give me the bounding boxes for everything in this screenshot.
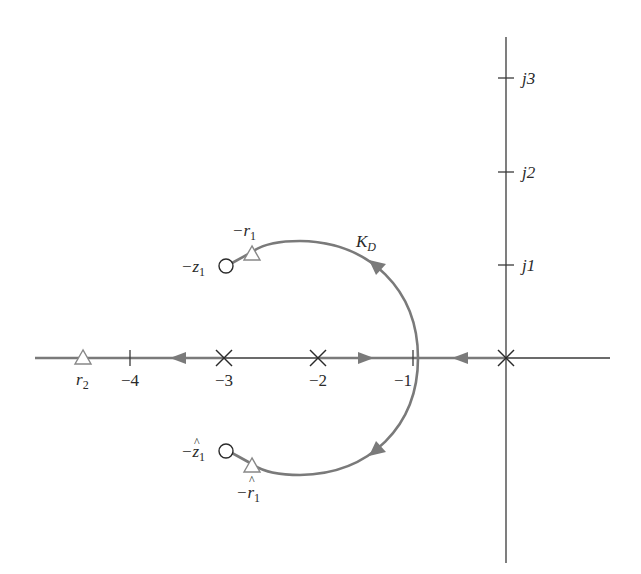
tick-label-m2: −2 xyxy=(309,371,327,390)
arrow-right-icon xyxy=(358,352,374,364)
locus-upper-arc xyxy=(252,241,418,358)
tick-label-m3: −3 xyxy=(215,371,233,390)
label-gain-kd: KD xyxy=(355,232,376,254)
arrow-left-icon xyxy=(452,352,468,364)
tick-label-m1: −1 xyxy=(394,371,412,390)
tick-label-j1: j1 xyxy=(520,256,535,275)
tick-label-j3: j3 xyxy=(520,69,535,88)
zero-marker-lower xyxy=(219,444,233,458)
label-neg-r1: −r1 xyxy=(232,221,256,243)
tick-label-m4: −4 xyxy=(121,371,140,390)
root-locus-plot: −r1 −z1 −z1 ^ −r1 ^ r2 KD −4 −3 −2 −1 j1… xyxy=(0,0,641,574)
tick-label-j2: j2 xyxy=(520,163,536,182)
label-r2: r2 xyxy=(76,370,89,392)
arrow-left-icon xyxy=(170,352,186,364)
label-neg-z1: −z1 xyxy=(181,257,205,279)
zero-marker-upper xyxy=(219,259,233,273)
hat-z1: ^ xyxy=(194,435,200,449)
hat-r1: ^ xyxy=(249,473,255,487)
